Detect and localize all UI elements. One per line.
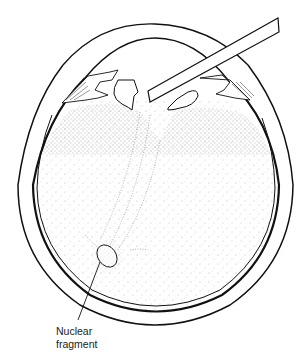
- ciliary-body-right: [200, 75, 250, 100]
- label-line-1: Nuclear: [56, 325, 97, 338]
- ciliary-body-left: [62, 70, 118, 103]
- eye-cross-section-diagram: [0, 0, 306, 361]
- surgical-instrument: [148, 18, 279, 102]
- label-line-2: fragment: [56, 338, 97, 351]
- nuclear-fragment-label: Nuclear fragment: [56, 325, 97, 350]
